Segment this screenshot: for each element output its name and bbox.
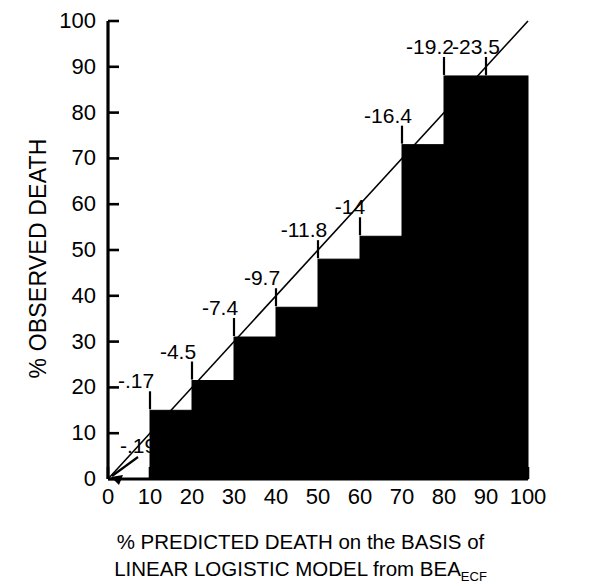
- data-point-label: -.17: [118, 370, 154, 391]
- data-point-label: -23.5: [452, 36, 500, 57]
- x-axis-title-line1: % PREDICTED DEATH on the BASIS of: [0, 528, 601, 555]
- data-point-label: -4.5: [160, 341, 196, 362]
- x-axis-title-subscript: ECF: [461, 569, 487, 584]
- x-axis-title-line2-text: LINEAR LOGISTIC MODEL from BEA: [114, 557, 461, 580]
- data-point-label: -9.7: [244, 267, 280, 288]
- x-axis-tick-labels: 0102030405060708090100: [0, 486, 601, 526]
- data-point-label: -11.8: [281, 219, 327, 240]
- data-point-label: -14: [335, 196, 365, 217]
- data-point-label: -16.4: [364, 105, 412, 126]
- chart-figure: % OBSERVED DEATH 0102030405060708090100 …: [0, 0, 601, 586]
- x-axis-tick-label: 100: [498, 486, 558, 508]
- data-point-label: -.19: [120, 435, 156, 456]
- data-point-label: -7.4: [202, 297, 238, 318]
- data-point-label: -19.2: [406, 36, 454, 57]
- x-axis-title-line2: LINEAR LOGISTIC MODEL from BEAECF: [0, 555, 601, 586]
- x-axis-title: % PREDICTED DEATH on the BASIS of LINEAR…: [0, 528, 601, 586]
